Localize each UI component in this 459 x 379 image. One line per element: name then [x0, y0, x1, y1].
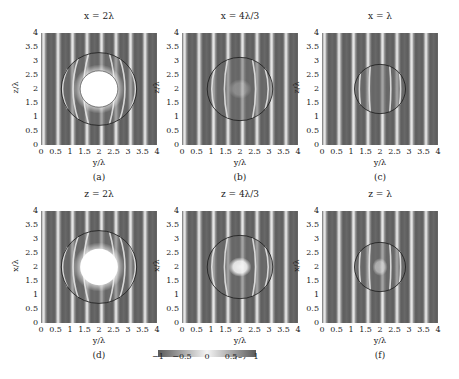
- y-axis-label: z/λ: [292, 78, 301, 98]
- y-tick-label: 4: [163, 206, 179, 215]
- y-tick-label: 3: [163, 56, 179, 65]
- y-tick-label: 3: [303, 56, 319, 65]
- heatmap-plot: [182, 33, 298, 145]
- y-tick-label: 2: [303, 84, 319, 93]
- x-axis-label: y/λ: [220, 158, 260, 167]
- y-tick-label: 2: [22, 262, 38, 271]
- colorbar-tick: −0.5: [172, 352, 192, 361]
- panel-caption: (a): [84, 172, 114, 182]
- y-tick-label: 3: [22, 234, 38, 243]
- colorbar-tick: 0: [197, 352, 217, 361]
- bright-core: [80, 249, 118, 285]
- y-tick-label: 0.5: [22, 304, 38, 313]
- y-tick-label: 3.5: [163, 220, 179, 229]
- y-tick-label: 3: [22, 56, 38, 65]
- panel-caption: (c): [365, 172, 395, 182]
- panel-title: z = 4λ/3: [182, 189, 298, 199]
- x-tick-label: 4: [430, 325, 446, 334]
- panel-title: z = λ: [322, 189, 438, 199]
- y-tick-label: 0.5: [163, 126, 179, 135]
- y-tick-label: 3.5: [22, 220, 38, 229]
- x-axis-label: y/λ: [79, 336, 119, 345]
- y-tick-label: 2: [22, 84, 38, 93]
- y-tick-label: 2.5: [303, 248, 319, 257]
- colorbar-tick: 0.5: [221, 352, 241, 361]
- heatmap-plot: [41, 33, 157, 145]
- y-tick-label: 2.5: [163, 70, 179, 79]
- colorbar: [158, 342, 256, 349]
- y-tick-label: 2.5: [22, 248, 38, 257]
- y-tick-label: 1: [163, 290, 179, 299]
- bright-core: [80, 71, 118, 107]
- y-tick-label: 2.5: [22, 70, 38, 79]
- y-axis-label: z/λ: [152, 78, 161, 98]
- y-tick-label: 0.5: [22, 126, 38, 135]
- y-tick-label: 1.5: [303, 98, 319, 107]
- panel-caption: (f): [365, 350, 395, 360]
- y-axis-label: x/λ: [152, 256, 161, 276]
- y-tick-label: 0.5: [303, 304, 319, 313]
- heatmap-plot: [322, 211, 438, 323]
- y-tick-label: 3.5: [22, 42, 38, 51]
- panel-title: x = 4λ/3: [182, 11, 298, 21]
- y-tick-label: 2.5: [303, 70, 319, 79]
- y-tick-label: 4: [22, 206, 38, 215]
- y-tick-label: 1: [22, 290, 38, 299]
- y-tick-label: 1.5: [163, 98, 179, 107]
- heatmap-plot: [182, 211, 298, 323]
- y-tick-label: 1: [163, 112, 179, 121]
- y-tick-label: 3.5: [303, 220, 319, 229]
- y-tick-label: 3.5: [163, 42, 179, 51]
- y-tick-label: 1.5: [22, 98, 38, 107]
- y-tick-label: 3: [163, 234, 179, 243]
- panel-caption: (d): [84, 350, 114, 360]
- y-tick-label: 1: [303, 290, 319, 299]
- y-tick-label: 1: [303, 112, 319, 121]
- panel-title: x = λ: [322, 11, 438, 21]
- y-axis-label: x/λ: [11, 256, 20, 276]
- y-tick-label: 1: [22, 112, 38, 121]
- y-axis-label: x/λ: [292, 256, 301, 276]
- y-axis-label: z/λ: [11, 78, 20, 98]
- heatmap-plot: [322, 33, 438, 145]
- y-tick-label: 3.5: [303, 42, 319, 51]
- y-tick-label: 0.5: [163, 304, 179, 313]
- y-tick-label: 4: [163, 28, 179, 37]
- x-tick-label: 4: [430, 147, 446, 156]
- panel-title: z = 2λ: [41, 189, 157, 199]
- y-tick-label: 4: [22, 28, 38, 37]
- y-tick-label: 3: [303, 234, 319, 243]
- y-tick-label: 2.5: [163, 248, 179, 257]
- panel-caption: (b): [225, 172, 255, 182]
- y-tick-label: 2: [163, 84, 179, 93]
- y-tick-label: 2: [303, 262, 319, 271]
- y-tick-label: 1.5: [163, 276, 179, 285]
- y-tick-label: 0.5: [303, 126, 319, 135]
- y-tick-label: 1.5: [303, 276, 319, 285]
- panel-title: x = 2λ: [41, 11, 157, 21]
- y-tick-label: 4: [303, 28, 319, 37]
- x-axis-label: y/λ: [360, 158, 400, 167]
- x-axis-label: y/λ: [360, 336, 400, 345]
- colorbar-tick: −1: [148, 352, 168, 361]
- heatmap-plot: [41, 211, 157, 323]
- colorbar-tick: 1: [246, 352, 266, 361]
- y-tick-label: 4: [303, 206, 319, 215]
- y-tick-label: 2: [163, 262, 179, 271]
- y-tick-label: 1.5: [22, 276, 38, 285]
- x-axis-label: y/λ: [79, 158, 119, 167]
